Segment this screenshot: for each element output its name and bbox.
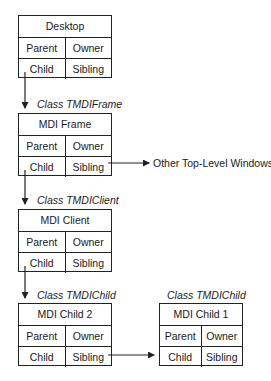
connector-arrows (0, 0, 271, 381)
